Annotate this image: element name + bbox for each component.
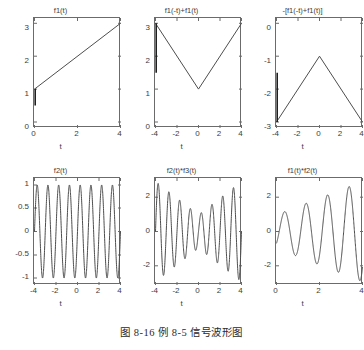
ytick-f2f3-0: 0 [121, 227, 150, 235]
panel-f1mt-plus-f1t: f1(-t)+f1(t) 3 [121, 6, 242, 166]
ytick-f2t-m1: -1 [0, 273, 29, 281]
panel-f1t-f2t: f1(t)*f2(t) 2 0 -2 0 2 4 t [242, 166, 363, 318]
xtick-f2t-0: -4 [30, 287, 37, 295]
xtick-f1f2-0: 0 [273, 287, 277, 295]
ytick-f2t-m05: -0.5 [0, 250, 29, 258]
plot-area-f1t [33, 17, 120, 127]
ytick-neg-0: 0 [242, 24, 271, 32]
ytick-f2t-1: 1 [0, 180, 29, 188]
ytick-f1mt-3: 3 [121, 24, 150, 32]
panel-title-f1t-f2t: f1(t)*f2(t) [242, 166, 363, 175]
xtick-f1f2-1: 2 [316, 287, 320, 295]
xtick-f2t-2: 0 [74, 287, 78, 295]
xtick-neg-0: -4 [272, 130, 279, 138]
ytick-f1t-0: 0 [0, 123, 29, 131]
plot-svg-f1t [34, 18, 121, 128]
ytick-f1f2-m2: -2 [242, 261, 271, 269]
xtick-neg-3: 2 [338, 130, 342, 138]
ytick-f1t-2: 2 [0, 57, 29, 65]
xtick-f2f3-2: 0 [195, 287, 199, 295]
xlabel-neg-f1mt-plus-f1t: t [242, 142, 363, 151]
subplot-grid: f1(t) 3 [0, 0, 363, 318]
ytick-neg-3: -3 [242, 123, 271, 131]
xtick-f2t-1: -2 [51, 287, 58, 295]
xtick-f1mt-2: 0 [195, 130, 199, 138]
plot-svg-f1mt-plus-f1t [155, 18, 242, 128]
xtick-f1t-0: 0 [31, 130, 35, 138]
plot-svg-neg-f1mt-plus-f1t [276, 18, 363, 128]
plot-area-neg-f1mt-plus-f1t [275, 17, 362, 127]
panel-neg-f1mt-plus-f1t: -[f1(-t)+f1(t)] 0 [242, 6, 363, 166]
xtick-f2f3-3: 2 [217, 287, 221, 295]
ytick-f1f2-0: 0 [242, 227, 271, 235]
xlabel-f2t: t [0, 299, 121, 308]
xlabel-f2t-f3t: t [121, 299, 242, 308]
xtick-f2t-3: 2 [96, 287, 100, 295]
plot-svg-f2t [34, 178, 121, 285]
xtick-neg-4: 4 [359, 130, 363, 138]
xtick-neg-2: 0 [316, 130, 320, 138]
xtick-f2f3-0: -4 [151, 287, 158, 295]
xlabel-f1t: t [0, 142, 121, 151]
xlabel-f1t-f2t: t [242, 299, 363, 308]
xtick-f1mt-3: 2 [217, 130, 221, 138]
ytick-f1mt-0: 0 [121, 123, 150, 131]
figure-caption: 图 8-16 例 8-5 信号波形图 [0, 326, 363, 340]
xtick-f2f3-1: -2 [172, 287, 179, 295]
xtick-f1mt-0: -4 [151, 130, 158, 138]
ytick-f2t-05: 0.5 [0, 203, 29, 211]
xtick-f1f2-2: 4 [359, 287, 363, 295]
ytick-f1t-3: 3 [0, 24, 29, 32]
plot-svg-f2t-f3t [155, 178, 242, 285]
xlabel-f1mt-plus-f1t: t [121, 142, 242, 151]
panel-f2t-f3t: f2(t)*f3(t) 2 0 -2 -4 -2 0 2 [121, 166, 242, 318]
plot-area-f1t-f2t [275, 177, 362, 284]
plot-area-f2t [33, 177, 120, 284]
plot-area-f2t-f3t [154, 177, 241, 284]
panel-f2t: f2(t) 1 0.5 0 -0.5 [0, 166, 121, 318]
ytick-f2f3-m2: -2 [121, 261, 150, 269]
ytick-f2f3-2: 2 [121, 192, 150, 200]
plot-svg-f1t-f2t [276, 178, 363, 285]
plot-area-f1mt-plus-f1t [154, 17, 241, 127]
ytick-f1mt-2: 2 [121, 57, 150, 65]
ytick-f1t-1: 1 [0, 90, 29, 98]
ytick-f2t-0: 0 [0, 227, 29, 235]
ytick-f1f2-2: 2 [242, 192, 271, 200]
panel-title-neg-f1mt-plus-f1t: -[f1(-t)+f1(t)] [242, 6, 363, 15]
panel-title-f1mt-plus-f1t: f1(-t)+f1(t) [121, 6, 242, 15]
panel-title-f2t: f2(t) [0, 166, 121, 175]
ytick-f1mt-1: 1 [121, 90, 150, 98]
ytick-neg-2: -2 [242, 90, 271, 98]
xtick-f1t-1: 2 [74, 130, 78, 138]
xtick-f1mt-1: -2 [172, 130, 179, 138]
ytick-neg-1: -1 [242, 57, 271, 65]
xtick-neg-1: -2 [293, 130, 300, 138]
panel-title-f2t-f3t: f2(t)*f3(t) [121, 166, 242, 175]
panel-f1t: f1(t) 3 [0, 6, 121, 166]
panel-title-f1t: f1(t) [0, 6, 121, 15]
